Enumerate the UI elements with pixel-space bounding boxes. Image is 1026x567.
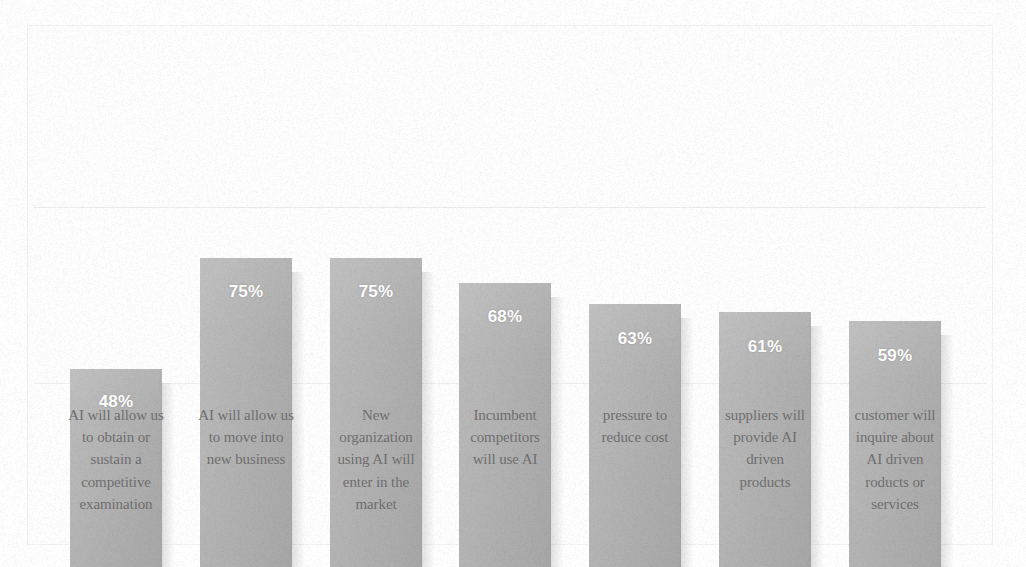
bar-value-label-7: 59% — [849, 346, 941, 366]
category-label-line: reduce cost — [572, 426, 698, 448]
bar-group-4: 68% — [459, 184, 551, 567]
bar-chart-plot-area: 48% 75% 75% 68% 63% 61% 59% AI will — [0, 0, 1026, 567]
bar-value-label-5: 63% — [589, 329, 681, 349]
category-label-5: pressure toreduce cost — [572, 404, 698, 448]
category-label-line: suppliers will — [702, 404, 828, 426]
bar-value-label-6: 61% — [719, 337, 811, 357]
category-label-line: enter in the — [313, 471, 439, 493]
category-label-line: to move into — [183, 426, 309, 448]
category-label-line: pressure to — [572, 404, 698, 426]
category-label-2: AI will allow usto move intonew business — [183, 404, 309, 471]
category-label-line: Incumbent — [442, 404, 568, 426]
category-label-line: sustain a — [53, 448, 179, 470]
category-label-line: New — [313, 404, 439, 426]
category-label-line: products — [702, 471, 828, 493]
category-label-line: services — [832, 493, 958, 515]
category-label-line: customer will — [832, 404, 958, 426]
bar-value-label-3: 75% — [330, 282, 422, 302]
category-label-6: suppliers willprovide AIdrivenproducts — [702, 404, 828, 493]
category-label-line: will use AI — [442, 448, 568, 470]
bar-value-label-2: 75% — [200, 282, 292, 302]
category-label-line: market — [313, 493, 439, 515]
category-label-line: competitive — [53, 471, 179, 493]
bar-group-5: 63% — [589, 184, 681, 567]
bar-value-label-4: 68% — [459, 307, 551, 327]
category-label-line: AI will allow us — [183, 404, 309, 426]
category-label-7: customer willinquire aboutAI drivenroduc… — [832, 404, 958, 515]
bar-group-6: 61% — [719, 184, 811, 567]
category-label-line: driven — [702, 448, 828, 470]
category-label-line: using AI will — [313, 448, 439, 470]
category-label-3: Neworganizationusing AI willenter in the… — [313, 404, 439, 515]
category-label-line: new business — [183, 448, 309, 470]
category-label-line: competitors — [442, 426, 568, 448]
bar-group-2: 75% — [200, 184, 292, 567]
category-label-line: organization — [313, 426, 439, 448]
category-label-line: to obtain or — [53, 426, 179, 448]
category-label-4: Incumbentcompetitorswill use AI — [442, 404, 568, 471]
category-label-line: roducts or — [832, 471, 958, 493]
category-label-line: AI driven — [832, 448, 958, 470]
category-label-line: provide AI — [702, 426, 828, 448]
category-label-1: AI will allow usto obtain orsustain acom… — [53, 404, 179, 515]
category-label-line: examination — [53, 493, 179, 515]
category-label-line: AI will allow us — [53, 404, 179, 426]
category-label-line: inquire about — [832, 426, 958, 448]
